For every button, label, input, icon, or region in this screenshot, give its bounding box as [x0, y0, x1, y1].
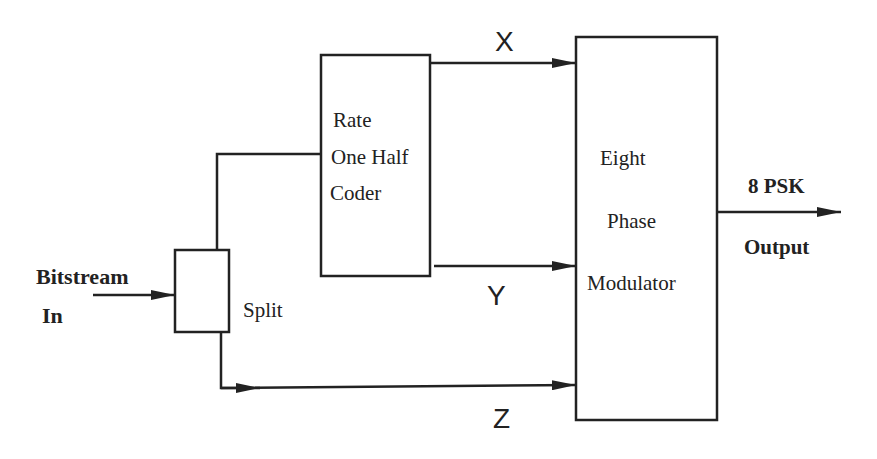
- split-block: [175, 250, 229, 332]
- split-to-coder-line: [217, 154, 321, 250]
- z-line: [221, 332, 576, 388]
- modulator-label-line3: Modulator: [587, 273, 676, 294]
- split-label: Split: [243, 300, 283, 321]
- input-label-line1: Bitstream: [36, 266, 128, 288]
- output-label-line2: Output: [744, 237, 809, 258]
- modulator-label-line2: Phase: [607, 211, 656, 232]
- coder-label-line2: One Half: [331, 147, 409, 168]
- input-label-line2: In: [42, 305, 63, 327]
- coder-label-line3: Coder: [330, 183, 381, 204]
- output-label-line1: 8 PSK: [748, 176, 805, 197]
- coder-label-line1: Rate: [333, 110, 371, 131]
- signal-x-label: X: [495, 28, 514, 56]
- modulator-label-line1: Eight: [600, 148, 646, 169]
- signal-z-label: Z: [493, 405, 510, 433]
- signal-y-label: Y: [487, 282, 506, 310]
- block-diagram: [0, 0, 877, 459]
